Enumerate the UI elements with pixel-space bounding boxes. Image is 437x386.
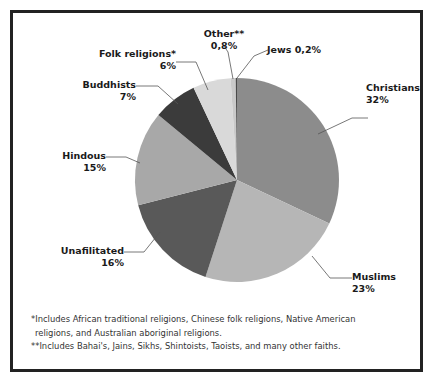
pie-label-muslims-name: Muslims <box>352 271 396 283</box>
pie-label-unafilitated: Unafilitated 16% <box>24 245 124 268</box>
pie-label-buddhists-value: 7% <box>56 91 136 103</box>
pie-label-buddhists-name: Buddhists <box>56 79 136 91</box>
pie-label-unafilitated-name: Unafilitated <box>24 245 124 257</box>
leader-line-buddhists <box>136 86 178 104</box>
leader-line-hindous <box>106 157 140 163</box>
pie-label-other-value: 0,8% <box>182 40 266 52</box>
pie-label-muslims: Muslims 23% <box>352 271 396 294</box>
pie-label-jews: Jews 0,2% <box>267 44 321 56</box>
chart-page: Christians 32% Muslims 23% Unafilitated … <box>0 0 437 386</box>
pie-label-muslims-value: 23% <box>352 283 396 295</box>
leader-line-jews <box>237 50 268 78</box>
pie-label-christians-name: Christians <box>366 82 420 94</box>
pie-label-jews-name: Jews <box>267 44 295 55</box>
pie-label-other: Other** 0,8% <box>182 28 266 51</box>
pie-label-christians-value: 32% <box>366 94 420 106</box>
footnote-line-2: religions, and Australian aboriginal rel… <box>31 327 403 341</box>
pie-label-unafilitated-value: 16% <box>24 257 124 269</box>
footnote-line-1: *Includes African traditional religions,… <box>31 313 403 327</box>
pie-label-hindous-value: 15% <box>26 162 106 174</box>
pie-label-jews-value: 0,2% <box>295 44 321 55</box>
pie-label-other-name: Other** <box>182 28 266 40</box>
pie-label-folk-religions-name: Folk religions* <box>66 48 176 60</box>
pie-final <box>135 78 339 282</box>
footnote-line-3: **Includes Bahai's, Jains, Sikhs, Shinto… <box>31 340 403 354</box>
pie-label-hindous: Hindous 15% <box>26 150 106 173</box>
pie-label-buddhists: Buddhists 7% <box>56 79 136 102</box>
pie-label-christians: Christians 32% <box>366 82 420 105</box>
pie-label-hindous-name: Hindous <box>26 150 106 162</box>
pie-label-folk-religions-value: 6% <box>66 60 176 72</box>
footnotes-block: *Includes African traditional religions,… <box>31 313 403 354</box>
pie-label-folk-religions: Folk religions* 6% <box>66 48 176 71</box>
leader-line-muslims <box>312 256 352 278</box>
